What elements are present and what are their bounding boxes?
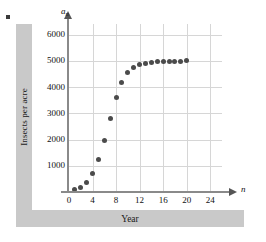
data-point	[108, 116, 113, 121]
y-tick-label: 1000	[31, 161, 65, 170]
x-tick-label: 16	[153, 196, 173, 205]
x-tick-label: 4	[83, 196, 103, 205]
gridline-vertical	[93, 24, 94, 192]
x-axis-arrow-icon	[229, 188, 237, 196]
data-point	[78, 185, 83, 190]
y-tick-label: 3000	[31, 109, 65, 118]
y-axis-band-label: Insects per acre	[19, 88, 29, 146]
bullet-marker-icon	[6, 15, 10, 19]
x-axis-line	[61, 191, 230, 193]
y-tick-label: 2000	[31, 135, 65, 144]
data-point	[96, 157, 101, 162]
x-tick-label: 0	[59, 196, 79, 205]
figure-container: Insects per acre Year an n 1000200030004…	[0, 0, 266, 242]
y-axis-line	[67, 18, 69, 192]
gridline-vertical	[187, 24, 188, 192]
data-point	[143, 61, 148, 66]
data-point	[161, 59, 166, 64]
gridline-vertical	[116, 24, 117, 192]
gridlines	[69, 24, 222, 192]
data-point	[149, 60, 154, 65]
data-point	[178, 59, 183, 64]
x-tick-label: 20	[177, 196, 197, 205]
data-point	[167, 59, 172, 64]
gridline-vertical	[163, 24, 164, 192]
data-point	[114, 95, 119, 100]
gridline-vertical	[140, 24, 141, 192]
x-tick-label: 12	[130, 196, 150, 205]
data-point	[102, 138, 107, 143]
y-tick-label: 4000	[31, 83, 65, 92]
x-tick-label: 8	[106, 196, 126, 205]
y-tick-label: 5000	[31, 56, 65, 65]
y-tick-label: 6000	[31, 30, 65, 39]
gridline-vertical	[210, 24, 211, 192]
y-axis-title-subscript: n	[66, 10, 69, 17]
x-tick-label: 24	[200, 196, 220, 205]
data-point	[155, 59, 160, 64]
x-axis-title: n	[241, 184, 246, 194]
plot-area	[69, 24, 222, 192]
x-tick-labels: 04812162024	[0, 196, 266, 210]
